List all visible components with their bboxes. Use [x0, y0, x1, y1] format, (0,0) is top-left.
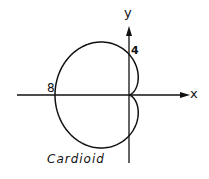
x-axis-arrow-icon — [180, 92, 190, 98]
x-intercept-label: 8 — [47, 81, 55, 95]
x-axis-label: x — [190, 86, 198, 101]
y-axis-label: y — [124, 5, 132, 20]
cardioid-diagram: y x 8 4 Cardioid — [0, 0, 209, 179]
y-intercept-label: 4 — [131, 44, 139, 57]
caption: Cardioid — [47, 152, 105, 166]
y-axis-arrow-icon — [126, 26, 132, 36]
